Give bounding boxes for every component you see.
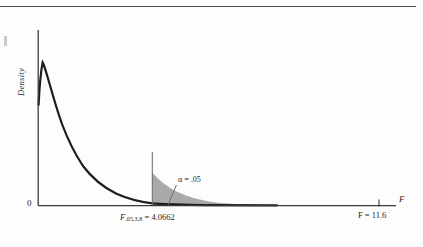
y-axis-origin-label: 0 [27, 199, 32, 208]
rejection-region-shading [152, 173, 277, 205]
alpha-annotation-label: α = .05 [178, 176, 201, 184]
critical-value-subscript: .05,3,8 [125, 216, 142, 222]
y-axis-title: Density [17, 68, 26, 96]
critical-value-equals: = 4.0662 [142, 212, 174, 222]
x-axis-title: F [399, 195, 405, 204]
figure-canvas: Density 0 α = .05 F.05,3,8 = 4.0662 F = … [0, 0, 423, 247]
observed-statistic-label: F = 11.6 [358, 211, 386, 220]
critical-value-label: F.05,3,8 = 4.0662 [120, 213, 175, 222]
